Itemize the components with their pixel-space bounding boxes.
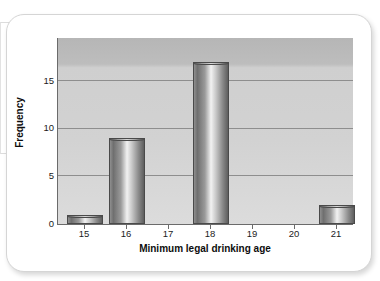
- plot-area: [57, 38, 353, 225]
- bar-cap: [193, 62, 229, 65]
- x-tick-label-16: 16: [113, 228, 139, 239]
- y-axis-ticks: 0 5 10 15: [26, 0, 54, 281]
- bar-18: [193, 62, 229, 224]
- y-tick-label-5: 5: [30, 171, 54, 181]
- page-root: Frequency 0 5 10 15 15 16: [0, 0, 380, 281]
- y-tick-label-0: 0: [30, 219, 54, 229]
- bar-cap: [319, 205, 355, 208]
- bar-cap: [109, 138, 145, 141]
- y-tick-label-15: 15: [30, 76, 54, 86]
- bar-21: [319, 205, 355, 224]
- x-tick-label-15: 15: [71, 228, 97, 239]
- x-tick-label-17: 17: [155, 228, 181, 239]
- x-tick-label-18: 18: [197, 228, 223, 239]
- y-axis-title: Frequency: [14, 83, 25, 163]
- x-tick-label-19: 19: [239, 228, 265, 239]
- x-tick-label-21: 21: [323, 228, 349, 239]
- x-axis-title: Minimum legal drinking age: [57, 243, 353, 254]
- histogram-chart: Frequency 0 5 10 15 15 16: [0, 0, 380, 281]
- y-tick-label-10: 10: [30, 123, 54, 133]
- x-tick-label-20: 20: [281, 228, 307, 239]
- bar-cap: [67, 215, 103, 218]
- bar-16: [109, 138, 145, 224]
- bar-15: [67, 215, 103, 225]
